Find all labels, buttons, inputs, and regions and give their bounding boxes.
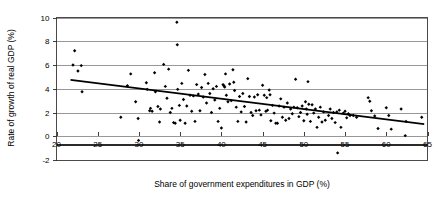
y-axis-tick-label: 0 xyxy=(45,132,50,141)
x-axis-title: Share of government expenditures in GDP … xyxy=(154,179,330,189)
x-axis-tick-label: 50 xyxy=(299,140,308,149)
y-axis-tick-label: 10 xyxy=(41,14,50,23)
x-axis-tick-label: 45 xyxy=(258,140,267,149)
y-axis-tick-label: 8 xyxy=(45,37,50,46)
scatter-chart-figure: 20253035404550556065 -20246810 Share of … xyxy=(0,0,445,197)
x-axis-tick-label: 65 xyxy=(423,140,432,149)
y-axis-tick-label: 2 xyxy=(45,109,50,118)
y-axis-title: Rate of growth of real GDP (%) xyxy=(6,29,16,147)
x-axis-tick-label: 35 xyxy=(176,140,185,149)
y-axis-tick-label: 4 xyxy=(45,85,50,94)
y-axis-tick-label: 6 xyxy=(45,61,50,70)
x-axis-tick-label: 60 xyxy=(382,140,391,149)
x-axis-tick-label: 55 xyxy=(341,140,350,149)
x-axis-tick-label: 20 xyxy=(52,140,61,149)
y-axis-tick-label: -2 xyxy=(42,156,50,165)
x-axis-tick-label: 40 xyxy=(217,140,226,149)
x-axis-tick-label: 30 xyxy=(134,140,143,149)
x-axis-tick-label: 25 xyxy=(93,140,102,149)
chart-canvas: 20253035404550556065 -20246810 Share of … xyxy=(0,0,445,197)
